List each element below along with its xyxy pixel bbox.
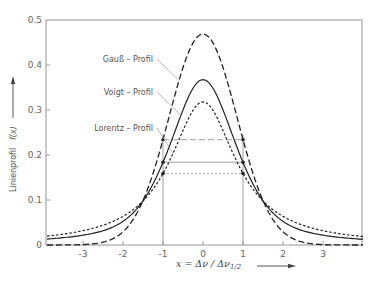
gauss-label: Gauß – Profil	[103, 55, 153, 64]
y-tick-label: 0.5	[28, 15, 42, 25]
x-axis-label: x = Δν / Δν1/2	[176, 258, 242, 271]
x-tick-label: -1	[159, 249, 168, 259]
y-tick-label: 0.1	[28, 195, 42, 205]
axis-ticks: 00.10.20.30.40.5-3-2-10123	[28, 15, 326, 259]
voigt-label: Voigt – Profil	[104, 88, 153, 97]
y-tick-label: 0	[36, 240, 42, 250]
y-axis-label-fx: f(x)	[9, 126, 18, 140]
lorentz-label: Lorentz – Profil	[94, 124, 153, 133]
x-tick-label: 3	[320, 249, 326, 259]
y-tick-label: 0.3	[28, 105, 42, 115]
y-axis-label-text: Linienprofil	[9, 148, 18, 192]
y-tick-label: 0.2	[28, 150, 42, 160]
x-tick-label: 2	[280, 249, 286, 259]
y-axis-arrow-icon	[11, 76, 15, 118]
x-axis-label-sub: 1/2	[230, 263, 242, 271]
x-tick-label: 1	[240, 249, 246, 259]
voigt-profilcurve	[47, 80, 363, 240]
x-tick-label: -2	[119, 249, 128, 259]
x-axis-arrow-icon	[257, 264, 296, 268]
x-axis-label-main: x = Δν / Δν	[176, 258, 230, 269]
lorentz-profilcurve	[47, 102, 363, 237]
annotation-leaders	[157, 59, 181, 153]
y-tick-label: 0.4	[28, 60, 43, 70]
line-profile-chart: 00.10.20.30.40.5-3-2-10123 Gauß – Profil…	[0, 0, 380, 286]
x-tick-label: -3	[79, 249, 88, 259]
y-axis-label: Linienprofil f(x)	[9, 126, 18, 192]
